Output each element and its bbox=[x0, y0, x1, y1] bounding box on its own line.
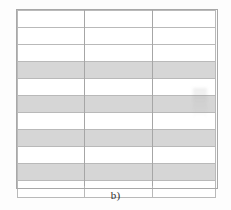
table-cell bbox=[18, 79, 85, 96]
table-cell bbox=[85, 62, 153, 79]
table-cell bbox=[153, 79, 216, 96]
table-row bbox=[18, 11, 216, 28]
data-table-container bbox=[17, 10, 215, 186]
table-cell bbox=[18, 113, 85, 130]
table-cell bbox=[18, 28, 85, 45]
table-cell bbox=[85, 45, 153, 62]
table-cell bbox=[18, 147, 85, 164]
table-row bbox=[18, 147, 216, 164]
table-cell bbox=[153, 11, 216, 28]
table-row bbox=[18, 28, 216, 45]
figure-panel: b) bbox=[0, 0, 231, 210]
table-cell bbox=[18, 164, 85, 181]
data-table bbox=[17, 10, 216, 198]
table-row bbox=[18, 62, 216, 79]
table-cell bbox=[153, 113, 216, 130]
table-cell bbox=[85, 113, 153, 130]
table-cell bbox=[85, 96, 153, 113]
table-cell bbox=[85, 130, 153, 147]
table-cell bbox=[153, 130, 216, 147]
table-cell bbox=[85, 164, 153, 181]
column-separator-1 bbox=[84, 10, 85, 186]
table-cell bbox=[18, 96, 85, 113]
table-cell bbox=[153, 96, 216, 113]
table-cell bbox=[18, 130, 85, 147]
table-row bbox=[18, 45, 216, 62]
table-row bbox=[18, 130, 216, 147]
table-row bbox=[18, 164, 216, 181]
table-cell bbox=[85, 147, 153, 164]
table-body bbox=[18, 11, 216, 198]
table-row bbox=[18, 96, 216, 113]
table-cell bbox=[85, 28, 153, 45]
table-cell bbox=[153, 164, 216, 181]
table-row bbox=[18, 79, 216, 96]
table-cell bbox=[153, 62, 216, 79]
table-cell bbox=[85, 11, 153, 28]
table-cell bbox=[18, 45, 85, 62]
table-cell bbox=[18, 62, 85, 79]
table-cell bbox=[153, 147, 216, 164]
table-cell bbox=[85, 79, 153, 96]
column-separator-2 bbox=[152, 10, 153, 186]
table-row bbox=[18, 113, 216, 130]
table-cell bbox=[153, 45, 216, 62]
table-cell bbox=[153, 28, 216, 45]
figure-caption: b) bbox=[0, 189, 231, 201]
table-cell bbox=[18, 11, 85, 28]
